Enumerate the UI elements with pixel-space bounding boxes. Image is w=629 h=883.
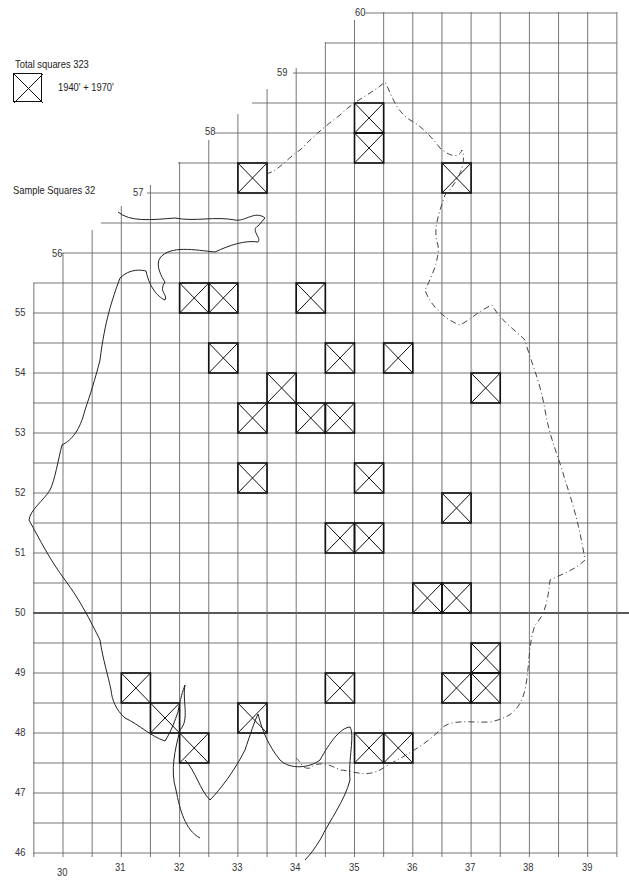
lat-label: 54 <box>15 366 25 378</box>
coastline-south <box>185 714 352 860</box>
lat-label: 59 <box>277 66 287 78</box>
lat-label: 53 <box>15 426 25 438</box>
lon-label: 35 <box>349 861 359 873</box>
lon-label: 32 <box>174 861 184 873</box>
boundary-line <box>266 82 585 774</box>
lon-label: 36 <box>407 861 417 873</box>
lat-label: 50 <box>15 606 25 618</box>
map-grid <box>0 0 629 883</box>
coastline <box>29 212 265 838</box>
lat-label: 49 <box>15 666 25 678</box>
lat-label: 48 <box>15 726 25 738</box>
lat-label: 60 <box>355 6 365 18</box>
lat-label: 47 <box>15 786 25 798</box>
lon-label: 33 <box>232 861 242 873</box>
lat-label: 55 <box>15 306 25 318</box>
lon-label: 39 <box>582 861 592 873</box>
lat-label: 52 <box>15 486 25 498</box>
lon-label: 38 <box>523 861 533 873</box>
lat-label: 58 <box>205 125 215 137</box>
lon-label: 30 <box>57 866 67 878</box>
lat-label: 56 <box>52 247 62 259</box>
lon-label: 37 <box>465 861 475 873</box>
lon-label: 31 <box>115 861 125 873</box>
lat-label: 46 <box>15 846 25 858</box>
grid-map: Total squares 323 1940' + 1970' Sample S… <box>0 0 629 883</box>
lon-label: 34 <box>290 861 300 873</box>
lat-label: 51 <box>15 546 25 558</box>
lat-label: 57 <box>133 186 143 198</box>
